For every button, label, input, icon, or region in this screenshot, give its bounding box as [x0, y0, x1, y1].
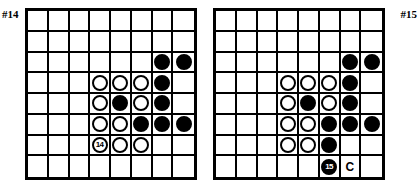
board-cell[interactable]: [173, 156, 194, 177]
board-cell[interactable]: [278, 53, 299, 74]
board-cell[interactable]: [258, 11, 279, 32]
board-cell[interactable]: [299, 53, 320, 74]
board-cell[interactable]: [132, 156, 153, 177]
board-cell[interactable]: [132, 136, 153, 157]
board-cell[interactable]: [132, 32, 153, 53]
board-cell[interactable]: [341, 115, 362, 136]
board-cell[interactable]: [153, 94, 174, 115]
board-cell[interactable]: [90, 53, 111, 74]
board-cell[interactable]: [278, 156, 299, 177]
board-cell[interactable]: [320, 115, 341, 136]
board-cell[interactable]: [173, 11, 194, 32]
board-cell[interactable]: [90, 73, 111, 94]
board-cell[interactable]: [361, 136, 382, 157]
board-cell[interactable]: [237, 156, 258, 177]
board-cell[interactable]: [49, 73, 70, 94]
board-cell[interactable]: [341, 136, 362, 157]
board-cell[interactable]: [320, 136, 341, 157]
board-cell[interactable]: [299, 115, 320, 136]
board-cell[interactable]: [320, 32, 341, 53]
board-cell[interactable]: [216, 73, 237, 94]
board-cell[interactable]: [237, 136, 258, 157]
board-cell[interactable]: [258, 53, 279, 74]
board-cell[interactable]: [320, 73, 341, 94]
board-cell[interactable]: [153, 136, 174, 157]
board-cell[interactable]: [173, 115, 194, 136]
board-cell[interactable]: [111, 94, 132, 115]
board-cell[interactable]: [237, 32, 258, 53]
board-cell[interactable]: [111, 53, 132, 74]
board-cell[interactable]: [153, 115, 174, 136]
board-cell[interactable]: [90, 11, 111, 32]
board-cell[interactable]: [173, 53, 194, 74]
board-cell[interactable]: [28, 115, 49, 136]
board-cell[interactable]: [70, 136, 91, 157]
board-cell[interactable]: [111, 11, 132, 32]
board-cell[interactable]: [111, 73, 132, 94]
board-cell[interactable]: [341, 11, 362, 32]
board-cell[interactable]: [258, 94, 279, 115]
board-cell[interactable]: [153, 53, 174, 74]
board-cell[interactable]: [361, 32, 382, 53]
board-cell[interactable]: [70, 11, 91, 32]
board-cell[interactable]: [49, 94, 70, 115]
board-cell[interactable]: [28, 94, 49, 115]
board-cell[interactable]: [237, 11, 258, 32]
board-cell[interactable]: [216, 94, 237, 115]
board-cell[interactable]: [28, 73, 49, 94]
board-cell[interactable]: [28, 11, 49, 32]
board-cell[interactable]: [28, 136, 49, 157]
board-cell[interactable]: [173, 136, 194, 157]
board-cell[interactable]: [216, 156, 237, 177]
board-cell[interactable]: [49, 115, 70, 136]
board-cell[interactable]: [299, 73, 320, 94]
board-cell[interactable]: [132, 53, 153, 74]
board-cell[interactable]: [153, 32, 174, 53]
board-cell[interactable]: [49, 11, 70, 32]
board-cell[interactable]: 14: [90, 136, 111, 157]
board-cell[interactable]: [361, 115, 382, 136]
board-cell[interactable]: [153, 73, 174, 94]
board-cell[interactable]: [132, 73, 153, 94]
board-cell[interactable]: C: [341, 156, 362, 177]
board-cell[interactable]: [361, 94, 382, 115]
board-cell[interactable]: [111, 32, 132, 53]
board-cell[interactable]: [111, 115, 132, 136]
go-board-15[interactable]: 15C: [213, 8, 385, 180]
board-cell[interactable]: [320, 53, 341, 74]
board-cell[interactable]: [299, 156, 320, 177]
board-cell[interactable]: [70, 94, 91, 115]
board-cell[interactable]: [361, 53, 382, 74]
board-cell[interactable]: [132, 11, 153, 32]
board-cell[interactable]: [153, 156, 174, 177]
board-cell[interactable]: [111, 136, 132, 157]
board-cell[interactable]: [361, 156, 382, 177]
board-cell[interactable]: [237, 73, 258, 94]
board-cell[interactable]: [258, 32, 279, 53]
board-cell[interactable]: [278, 115, 299, 136]
board-cell[interactable]: [173, 32, 194, 53]
board-cell[interactable]: [237, 53, 258, 74]
board-cell[interactable]: 15: [320, 156, 341, 177]
board-cell[interactable]: [28, 53, 49, 74]
board-cell[interactable]: [28, 156, 49, 177]
board-cell[interactable]: [70, 73, 91, 94]
board-cell[interactable]: [28, 32, 49, 53]
board-cell[interactable]: [173, 73, 194, 94]
board-cell[interactable]: [258, 156, 279, 177]
board-cell[interactable]: [216, 11, 237, 32]
board-cell[interactable]: [153, 11, 174, 32]
board-cell[interactable]: [173, 94, 194, 115]
board-cell[interactable]: [49, 53, 70, 74]
board-cell[interactable]: [49, 136, 70, 157]
board-cell[interactable]: [216, 32, 237, 53]
board-cell[interactable]: [278, 136, 299, 157]
board-cell[interactable]: [341, 32, 362, 53]
board-cell[interactable]: [90, 32, 111, 53]
board-cell[interactable]: [278, 32, 299, 53]
board-cell[interactable]: [237, 115, 258, 136]
board-cell[interactable]: [216, 115, 237, 136]
board-cell[interactable]: [361, 73, 382, 94]
board-cell[interactable]: [49, 156, 70, 177]
board-cell[interactable]: [90, 94, 111, 115]
